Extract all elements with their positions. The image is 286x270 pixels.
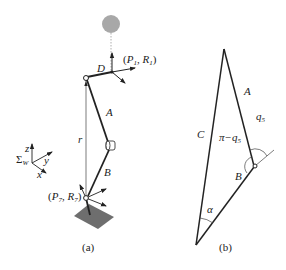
figure-b: A q5 C π−q5 α B (b) (196, 49, 274, 254)
label-r: r (78, 133, 83, 145)
label-b: B (104, 166, 111, 178)
world-frame (32, 144, 52, 173)
label-a: A (105, 106, 113, 118)
label-b-pi-minus-q5: π−q5 (219, 131, 241, 145)
d-frame-y-arrow (112, 68, 135, 72)
side-a (224, 49, 254, 166)
arc-q5 (250, 149, 267, 156)
label-b-b: B (235, 170, 242, 182)
label-b-q5: q5 (256, 110, 266, 124)
label-world-frame: ΣW (16, 153, 29, 167)
caption-a: (a) (82, 241, 95, 254)
label-p1-r1: (P1, R1) (123, 53, 157, 67)
link-a (87, 80, 108, 142)
label-axis-z: z (24, 142, 30, 154)
figure-a: D (P1, R1) A r B (P7, R7) ΣW z y x (a) (16, 15, 157, 254)
d-joint (110, 70, 113, 73)
label-b-alpha: α (207, 203, 213, 215)
side-c (196, 49, 224, 245)
world-y-arrow (32, 152, 52, 163)
caption-b: (b) (219, 241, 232, 254)
label-b-c: C (197, 128, 205, 140)
diagram-canvas: D (P1, R1) A r B (P7, R7) ΣW z y x (a) A… (0, 0, 286, 270)
label-d: D (96, 62, 105, 74)
arc-alpha (200, 218, 213, 223)
ankle-joint (84, 196, 89, 201)
label-p7-r7: (P7, R7) (48, 190, 82, 204)
side-b (196, 167, 254, 245)
vertex-joint (253, 164, 257, 168)
label-b-a: A (243, 85, 251, 97)
head-circle (102, 15, 120, 33)
label-axis-x: x (36, 168, 42, 180)
knee-joint-cylinder (106, 141, 115, 150)
label-axis-y: y (43, 154, 49, 166)
ground-plate (74, 204, 114, 229)
d-frame-x-arrow (112, 72, 125, 83)
